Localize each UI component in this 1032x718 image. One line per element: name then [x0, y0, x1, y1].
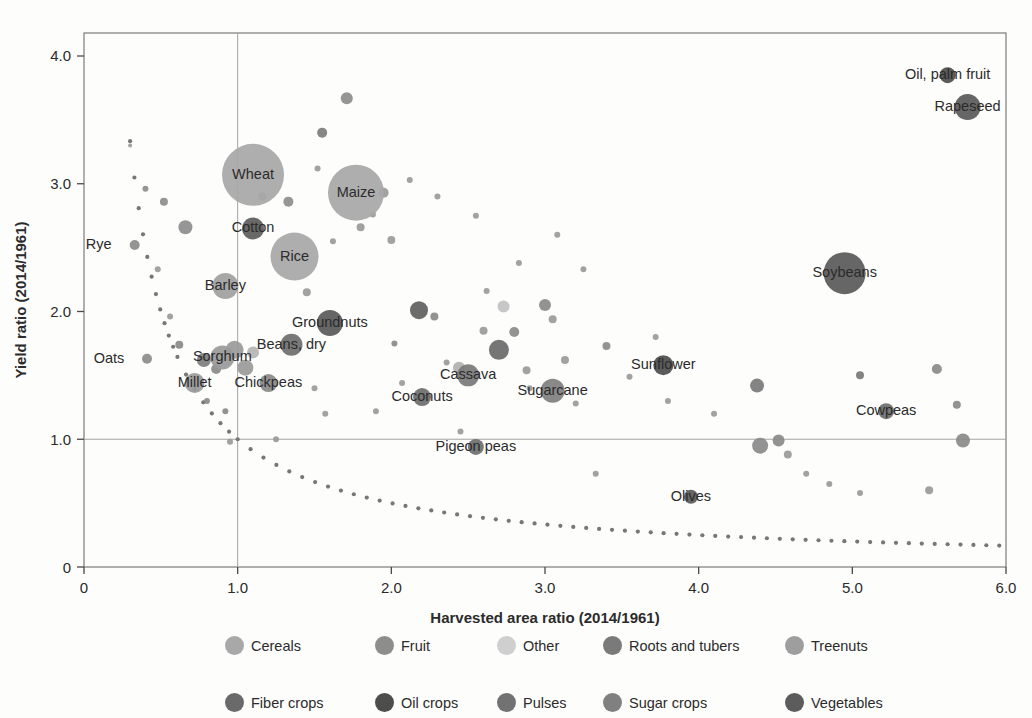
data-point[interactable]	[480, 327, 488, 335]
curve-dot	[455, 512, 459, 516]
data-point[interactable]	[434, 194, 440, 200]
curve-dot	[868, 540, 872, 544]
data-point[interactable]	[498, 300, 510, 312]
curve-dot	[907, 541, 911, 545]
legend-item-roots-and-tubers[interactable]: Roots and tubers	[603, 636, 739, 655]
data-point[interactable]	[283, 197, 293, 207]
data-point[interactable]	[826, 481, 832, 487]
data-point[interactable]	[473, 213, 479, 219]
data-point[interactable]	[516, 260, 522, 266]
point-label-chickpeas: Chickpeas	[235, 374, 303, 390]
y-axis-title: Yield ratio (2014/1961)	[12, 221, 29, 378]
data-point[interactable]	[303, 288, 311, 296]
data-point[interactable]	[457, 429, 463, 435]
data-point[interactable]	[953, 401, 961, 409]
data-point[interactable]	[956, 434, 970, 448]
data-point[interactable]	[784, 451, 792, 459]
data-point[interactable]	[509, 327, 519, 337]
data-point[interactable]	[580, 266, 586, 272]
data-point[interactable]	[312, 385, 318, 391]
data-point[interactable]	[561, 356, 569, 364]
data-point[interactable]	[273, 436, 279, 442]
curve-dot	[352, 492, 356, 496]
data-point[interactable]	[750, 379, 764, 393]
curve-dot	[687, 532, 691, 536]
legend-item-sugar-crops[interactable]: Sugar crops	[603, 693, 707, 712]
legend-swatch-icon	[375, 636, 394, 655]
data-point[interactable]	[773, 435, 785, 447]
data-point[interactable]	[539, 299, 551, 311]
data-point[interactable]	[373, 408, 379, 414]
data-point[interactable]	[128, 143, 132, 147]
data-point[interactable]	[222, 408, 228, 414]
data-point[interactable]	[317, 128, 327, 138]
data-point[interactable]	[489, 340, 509, 360]
data-point[interactable]	[155, 266, 161, 272]
data-point[interactable]	[523, 366, 531, 374]
curve-dot	[984, 543, 988, 547]
data-point[interactable]	[315, 165, 321, 171]
data-point[interactable]	[549, 315, 557, 323]
legend-label: Fiber crops	[251, 695, 324, 711]
legend-item-other[interactable]: Other	[497, 636, 559, 655]
curve-dot	[132, 175, 136, 179]
data-point[interactable]	[175, 341, 183, 349]
data-point[interactable]	[178, 220, 192, 234]
curve-dot	[150, 275, 154, 279]
data-point[interactable]	[627, 374, 633, 380]
curve-dot	[674, 532, 678, 536]
data-point[interactable]	[399, 380, 405, 386]
data-point[interactable]	[593, 471, 599, 477]
data-point[interactable]	[430, 313, 438, 321]
curve-dot	[378, 499, 382, 503]
data-point-oats[interactable]	[142, 354, 152, 364]
data-point[interactable]	[857, 490, 863, 496]
point-label-groundnuts: Groundnuts	[292, 314, 368, 330]
curve-dot	[571, 525, 575, 529]
legend-swatch-icon	[603, 636, 622, 655]
legend-item-pulses[interactable]: Pulses	[497, 693, 567, 712]
y-axis-tick-label: 4.0	[50, 47, 71, 64]
legend-item-vegetables[interactable]: Vegetables	[785, 693, 883, 712]
data-point[interactable]	[391, 340, 397, 346]
legend-item-fiber-crops[interactable]: Fiber crops	[225, 693, 324, 712]
data-point[interactable]	[856, 371, 864, 379]
curve-dot	[662, 531, 666, 535]
data-point[interactable]	[407, 177, 413, 183]
data-point-rye[interactable]	[130, 240, 140, 250]
legend-item-treenuts[interactable]: Treenuts	[785, 636, 868, 655]
data-point[interactable]	[602, 342, 610, 350]
curve-dot	[210, 411, 214, 415]
data-point[interactable]	[410, 301, 428, 319]
data-point[interactable]	[227, 439, 233, 445]
data-point[interactable]	[665, 398, 671, 404]
curve-dot	[958, 543, 962, 547]
chart-legend: CerealsFruitOtherRoots and tubersTreenut…	[225, 636, 925, 698]
legend-item-oil-crops[interactable]: Oil crops	[375, 693, 458, 712]
data-point[interactable]	[204, 398, 210, 404]
data-point[interactable]	[653, 334, 659, 340]
data-point[interactable]	[387, 236, 395, 244]
data-point[interactable]	[932, 364, 942, 374]
data-point[interactable]	[341, 92, 353, 104]
point-label-soybeans: Soybeans	[812, 264, 877, 280]
data-point[interactable]	[357, 223, 365, 231]
data-point[interactable]	[160, 198, 168, 206]
data-point[interactable]	[554, 232, 560, 238]
data-point[interactable]	[322, 411, 328, 417]
data-point[interactable]	[167, 314, 173, 320]
point-label-rapeseed: Rapeseed	[935, 98, 1001, 114]
legend-item-fruit[interactable]: Fruit	[375, 636, 430, 655]
data-point[interactable]	[803, 471, 809, 477]
data-point[interactable]	[752, 438, 768, 454]
data-point[interactable]	[444, 360, 450, 366]
data-point[interactable]	[573, 400, 579, 406]
data-point[interactable]	[711, 411, 717, 417]
data-point[interactable]	[925, 486, 933, 494]
data-point[interactable]	[330, 238, 336, 244]
data-point[interactable]	[142, 186, 148, 192]
curve-dot	[128, 139, 132, 143]
legend-item-cereals[interactable]: Cereals	[225, 636, 301, 655]
curve-dot	[829, 539, 833, 543]
data-point[interactable]	[484, 288, 490, 294]
